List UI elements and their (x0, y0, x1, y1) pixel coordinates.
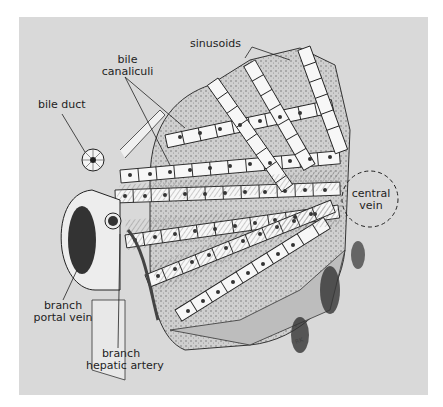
label-bile-duct: bile duct (38, 99, 86, 111)
label-central-vein-line2: vein (349, 200, 393, 212)
label-bile-canaliculi-line2: canaliculi (100, 66, 155, 78)
label-portal-vein-line2: portal vein (33, 312, 93, 324)
label-central-vein: central vein (349, 188, 393, 212)
label-branch-portal-vein: branch portal vein (33, 300, 93, 324)
label-hepatic-artery-line2: hepatic artery (86, 360, 156, 372)
label-sinusoids: sinusoids (190, 38, 241, 50)
label-branch-hepatic-artery: branch hepatic artery (86, 348, 156, 372)
label-bile-canaliculi: bile canaliculi (100, 54, 155, 78)
